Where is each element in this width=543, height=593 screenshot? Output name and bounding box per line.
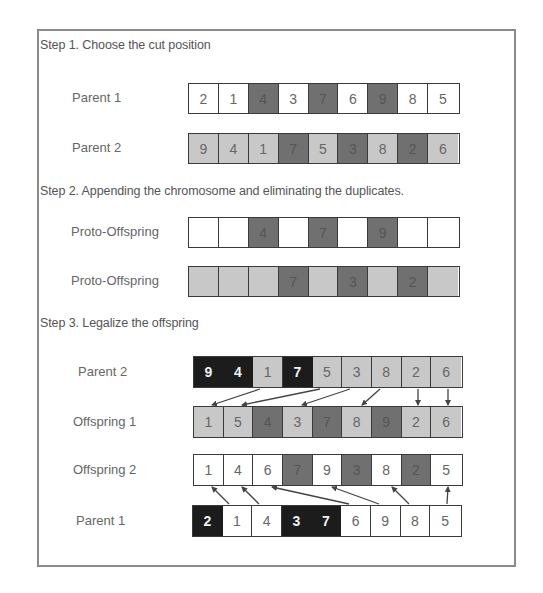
step2-proto-offspring-1: 479	[188, 217, 460, 248]
gene-cell: 5	[430, 506, 460, 536]
gene-cell: 6	[338, 84, 368, 113]
gene-cell: 9	[189, 134, 219, 163]
gene-cell: 4	[224, 455, 254, 485]
gene-cell	[219, 267, 249, 296]
gene-cell: 8	[401, 506, 431, 536]
step1-parent2-chromosome: 941753826	[188, 133, 460, 164]
gene-cell: 8	[398, 84, 428, 113]
step3-offspring1-label: Offspring 1	[73, 414, 136, 429]
gene-cell: 2	[402, 455, 432, 485]
gene-cell: 7	[283, 357, 313, 387]
gene-cell: 2	[398, 134, 428, 163]
gene-cell: 1	[253, 357, 283, 387]
gene-cell: 2	[398, 267, 428, 296]
gene-cell: 5	[313, 357, 343, 387]
gene-cell: 8	[372, 455, 402, 485]
gene-cell: 6	[431, 357, 461, 387]
gene-cell: 3	[283, 407, 313, 437]
gene-cell: 6	[341, 506, 371, 536]
step1-title: Step 1. Choose the cut position	[40, 38, 211, 52]
gene-cell: 4	[249, 218, 279, 247]
gene-cell: 7	[279, 134, 309, 163]
gene-cell: 7	[312, 506, 342, 536]
gene-cell: 4	[253, 407, 283, 437]
gene-cell	[189, 218, 219, 247]
step1-parent2-label: Parent 2	[72, 140, 121, 155]
gene-cell: 3	[279, 84, 309, 113]
gene-cell: 9	[371, 506, 401, 536]
gene-cell: 7	[309, 84, 339, 113]
step1-parent1-chromosome: 214376985	[188, 83, 460, 114]
gene-cell: 5	[224, 407, 254, 437]
gene-cell: 1	[219, 84, 249, 113]
gene-cell: 7	[313, 407, 343, 437]
step3-offspring1-chromosome: 154378926	[193, 406, 463, 438]
gene-cell: 2	[402, 407, 432, 437]
step3-parent2-label: Parent 2	[78, 364, 127, 379]
gene-cell	[309, 267, 339, 296]
step2-proto1-label: Proto-Offspring	[71, 224, 159, 239]
gene-cell: 4	[219, 134, 249, 163]
gene-cell: 8	[342, 407, 372, 437]
step3-parent2-chromosome: 941753826	[193, 356, 463, 388]
gene-cell: 1	[194, 455, 224, 485]
gene-cell: 6	[428, 134, 458, 163]
gene-cell: 1	[194, 407, 224, 437]
gene-cell: 9	[368, 218, 398, 247]
gene-cell: 4	[249, 84, 279, 113]
gene-cell: 6	[253, 455, 283, 485]
gene-cell: 4	[224, 357, 254, 387]
gene-cell: 5	[428, 84, 458, 113]
step3-parent1-chromosome: 214376985	[192, 505, 462, 537]
gene-cell: 7	[279, 267, 309, 296]
gene-cell: 9	[313, 455, 343, 485]
gene-cell: 3	[282, 506, 312, 536]
gene-cell: 3	[338, 134, 368, 163]
step2-proto-offspring-2: 732	[188, 266, 460, 297]
gene-cell: 2	[189, 84, 219, 113]
gene-cell: 1	[249, 134, 279, 163]
step3-offspring2-chromosome: 146793825	[193, 454, 463, 486]
gene-cell: 8	[372, 357, 402, 387]
gene-cell: 3	[342, 455, 372, 485]
step3-offspring2-label: Offspring 2	[73, 462, 136, 477]
gene-cell: 5	[309, 134, 339, 163]
gene-cell	[189, 267, 219, 296]
step3-parent1-label: Parent 1	[76, 513, 125, 528]
step2-title: Step 2. Appending the chromosome and eli…	[40, 184, 404, 198]
gene-cell	[249, 267, 279, 296]
gene-cell: 6	[431, 407, 461, 437]
gene-cell	[338, 218, 368, 247]
gene-cell: 8	[368, 134, 398, 163]
step3-title: Step 3. Legalize the offspring	[40, 316, 199, 330]
gene-cell: 4	[252, 506, 282, 536]
gene-cell: 9	[372, 407, 402, 437]
gene-cell: 5	[431, 455, 461, 485]
gene-cell	[428, 267, 458, 296]
gene-cell: 1	[223, 506, 253, 536]
gene-cell	[428, 218, 458, 247]
step2-proto2-label: Proto-Offspring	[71, 273, 159, 288]
gene-cell: 2	[193, 506, 223, 536]
gene-cell	[398, 218, 428, 247]
gene-cell: 2	[402, 357, 432, 387]
gene-cell: 3	[342, 357, 372, 387]
step1-parent1-label: Parent 1	[72, 90, 121, 105]
gene-cell	[368, 267, 398, 296]
gene-cell: 3	[338, 267, 368, 296]
gene-cell: 9	[194, 357, 224, 387]
gene-cell	[279, 218, 309, 247]
gene-cell: 7	[309, 218, 339, 247]
gene-cell	[219, 218, 249, 247]
gene-cell: 9	[368, 84, 398, 113]
gene-cell: 7	[283, 455, 313, 485]
